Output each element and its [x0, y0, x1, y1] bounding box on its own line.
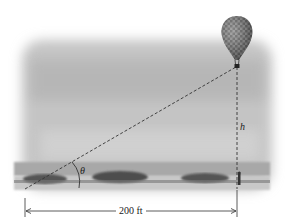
diagram-canvas: 200 ft h θ — [0, 0, 285, 221]
distance-label: 200 ft — [116, 206, 146, 216]
ground — [14, 162, 270, 190]
balloon-basket — [235, 64, 240, 68]
height-label: h — [240, 122, 245, 132]
person-figure — [238, 172, 241, 186]
angle-label: θ — [80, 166, 85, 176]
scene-svg — [0, 0, 285, 221]
